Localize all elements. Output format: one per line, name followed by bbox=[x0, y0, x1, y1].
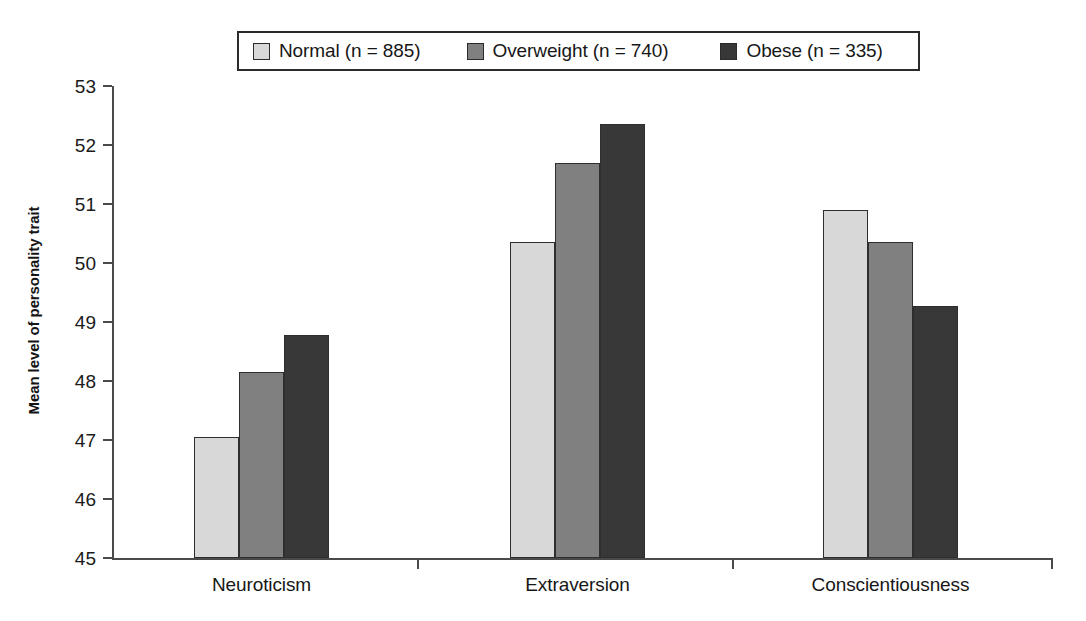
category-label-conscientiousness: Conscientiousness bbox=[812, 574, 970, 596]
bar-normal-conscientiousness bbox=[823, 210, 868, 558]
y-axis-tick: 50 bbox=[103, 262, 112, 264]
chart-legend: Normal (n = 885) Overweight (n = 740) Ob… bbox=[237, 31, 920, 71]
y-axis-title-text: Mean level of personality trait bbox=[26, 207, 43, 415]
bar-overweight-neuroticism bbox=[239, 372, 284, 558]
y-axis-title: Mean level of personality trait bbox=[16, 0, 52, 621]
legend-swatch-normal-icon bbox=[253, 43, 270, 60]
y-axis-tick-label: 53 bbox=[75, 76, 96, 98]
legend-label-normal: Normal (n = 885) bbox=[279, 40, 421, 62]
category-label-neuroticism: Neuroticism bbox=[212, 574, 311, 596]
y-axis-tick-label: 48 bbox=[75, 371, 96, 393]
y-axis-line bbox=[112, 86, 114, 559]
x-axis-end-tick bbox=[1051, 558, 1053, 569]
x-axis-tick bbox=[732, 558, 734, 569]
y-axis-tick: 46 bbox=[103, 498, 112, 500]
y-axis-tick: 47 bbox=[103, 439, 112, 441]
y-axis-tick-label: 47 bbox=[75, 430, 96, 452]
y-axis-tick-label: 51 bbox=[75, 194, 96, 216]
y-axis-tick: 51 bbox=[103, 203, 112, 205]
y-axis-tick-label: 52 bbox=[75, 135, 96, 157]
legend-swatch-overweight-icon bbox=[467, 43, 484, 60]
category-label-extraversion: Extraversion bbox=[525, 574, 629, 596]
x-axis-tick bbox=[417, 558, 419, 569]
bar-chart-figure: Normal (n = 885) Overweight (n = 740) Ob… bbox=[0, 0, 1086, 621]
y-axis-tick-label: 45 bbox=[75, 548, 96, 570]
legend-label-overweight: Overweight (n = 740) bbox=[493, 40, 669, 62]
bar-normal-neuroticism bbox=[194, 437, 239, 558]
x-axis-line bbox=[112, 558, 1053, 560]
legend-entry-normal: Normal (n = 885) bbox=[253, 33, 421, 69]
bar-obese-neuroticism bbox=[284, 335, 329, 558]
bar-normal-extraversion bbox=[510, 242, 555, 558]
y-axis-tick: 45 bbox=[103, 557, 112, 559]
bar-obese-extraversion bbox=[600, 124, 645, 558]
legend-swatch-obese-icon bbox=[720, 43, 737, 60]
y-axis-tick: 52 bbox=[103, 144, 112, 146]
y-axis-tick-label: 46 bbox=[75, 489, 96, 511]
y-axis-tick-label: 49 bbox=[75, 312, 96, 334]
y-axis-tick: 48 bbox=[103, 380, 112, 382]
plot-area: 454647484950515253 NeuroticismExtraversi… bbox=[112, 86, 1053, 558]
bar-overweight-conscientiousness bbox=[868, 242, 913, 558]
y-axis-tick-label: 50 bbox=[75, 253, 96, 275]
bar-overweight-extraversion bbox=[555, 163, 600, 558]
legend-entry-obese: Obese (n = 335) bbox=[720, 33, 882, 69]
y-axis-tick: 49 bbox=[103, 321, 112, 323]
y-axis-tick: 53 bbox=[103, 85, 112, 87]
bar-obese-conscientiousness bbox=[913, 306, 958, 558]
legend-entry-overweight: Overweight (n = 740) bbox=[467, 33, 669, 69]
legend-label-obese: Obese (n = 335) bbox=[746, 40, 882, 62]
